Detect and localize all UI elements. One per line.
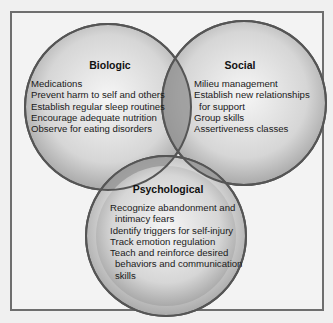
list-item: Medications [31,78,165,89]
list-item: Teach and reinforce desired [110,247,242,258]
list-item: Recognize abandonment and [110,202,242,213]
biologic-title: Biologic [60,59,160,71]
list-item: Track emotion regulation [110,236,242,247]
psychological-list: Recognize abandonment and intimacy fears… [110,202,242,281]
list-item: Group skills [194,112,310,123]
list-item: Establish new relationships [194,89,310,100]
biologic-list: Medications Prevent harm to self and oth… [31,78,165,134]
social-title: Social [200,59,280,71]
list-item: Encourage adequate nutrition [31,112,165,123]
list-item: intimacy fears [110,213,242,224]
list-item: Identify triggers for self-injury [110,225,242,236]
list-item: Prevent harm to self and others [31,89,165,100]
list-item: for support [194,101,310,112]
list-item: Establish regular sleep routines [31,101,165,112]
list-item: Assertiveness classes [194,123,310,134]
list-item: Milieu management [194,78,310,89]
list-item: behaviors and communication [110,258,242,269]
list-item: Observe for eating disorders [31,123,165,134]
list-item: skills [110,270,242,281]
psychological-title: Psychological [118,183,218,195]
social-list: Milieu management Establish new relation… [194,78,310,134]
